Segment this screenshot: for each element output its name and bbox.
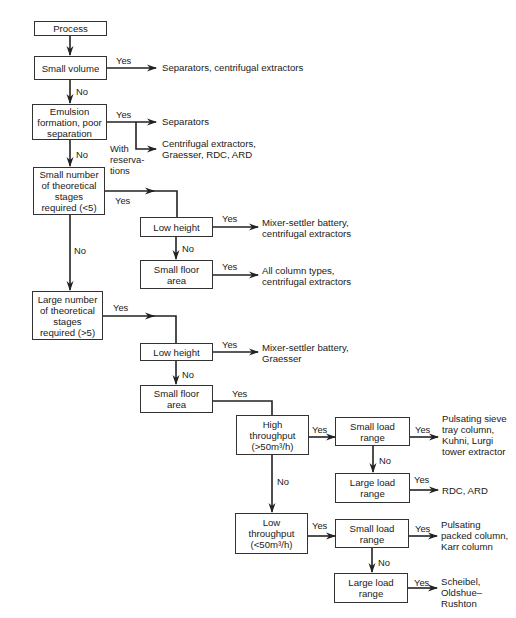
- outcome-emulsion: Separators: [162, 116, 209, 127]
- edge-label-yes: Yes: [116, 55, 131, 66]
- node-label: Small number of theoretical stages requi…: [39, 169, 98, 213]
- edge-label-yes: Yes: [222, 339, 237, 350]
- edge-label-no: No: [378, 557, 390, 568]
- node-small-load-range-2: Small load range: [335, 519, 409, 548]
- outcome-small-volume: Separators, centrifugal extractors: [162, 62, 303, 73]
- outcome-low-height-2: Mixer-settler battery, Graesser: [262, 342, 349, 364]
- node-label: Large number of theoretical stages requi…: [38, 294, 98, 338]
- edge-label-yes: Yes: [222, 261, 237, 272]
- node-low-throughput: Low throughput (<50m³/h): [235, 513, 308, 554]
- node-label: Small floor area: [154, 264, 199, 286]
- node-low-height-2: Low height: [140, 343, 213, 361]
- outcome-small-floor-1: All column types, centrifugal extractors: [262, 265, 351, 287]
- node-label: Small volume: [42, 63, 100, 74]
- edge-label-with-reservations: With reserva- tions: [110, 143, 144, 176]
- node-label: Process: [53, 23, 88, 34]
- edge-label-yes: Yes: [415, 523, 430, 534]
- edge-label-no: No: [182, 369, 194, 380]
- node-label: Emulsion formation, poor separation: [37, 106, 102, 139]
- node-small-floor-area-2: Small floor area: [140, 385, 213, 413]
- edge-label-yes: Yes: [312, 424, 327, 435]
- edge-label-no: No: [182, 243, 194, 254]
- node-small-floor-area-1: Small floor area: [140, 260, 213, 289]
- node-emulsion-formation: Emulsion formation, poor separation: [32, 104, 107, 140]
- edge-label-no: No: [379, 455, 391, 466]
- node-label: Low height: [153, 347, 199, 358]
- edge-label-no: No: [74, 245, 86, 256]
- edge-label-yes: Yes: [415, 424, 430, 435]
- node-label: Large load range: [350, 477, 395, 499]
- edge-label-yes: Yes: [414, 474, 429, 485]
- node-low-height-1: Low height: [140, 217, 213, 237]
- node-large-load-range-1: Large load range: [335, 473, 410, 503]
- outcome-small-load-1: Pulsating sieve tray column, Kuhni, Lurg…: [442, 413, 507, 457]
- node-process: Process: [34, 21, 107, 36]
- edge-label-no: No: [277, 476, 289, 487]
- node-label: Low throughput (<50m³/h): [249, 517, 295, 550]
- outcome-large-load-2: Scheibel, Oldshue– Rushton: [441, 576, 482, 609]
- edge-label-no: No: [76, 86, 88, 97]
- node-label: High throughput (>50m³/h): [250, 419, 296, 452]
- node-label: Small floor area: [154, 388, 199, 410]
- edge-label-yes: Yes: [115, 195, 130, 206]
- node-small-volume: Small volume: [34, 56, 107, 80]
- edge-label-yes: Yes: [222, 213, 237, 224]
- node-label: Large load range: [348, 577, 393, 599]
- node-label: Low height: [153, 222, 199, 233]
- edge-label-yes: Yes: [113, 302, 128, 313]
- node-large-load-range-2: Large load range: [334, 573, 408, 603]
- edge-label-yes: Yes: [116, 109, 131, 120]
- outcome-emulsion-reservations: Centrifugal extractors, Graesser, RDC, A…: [162, 138, 256, 160]
- outcome-large-load-1: RDC, ARD: [442, 485, 488, 496]
- edge-label-yes: Yes: [312, 520, 327, 531]
- node-label: Small load range: [350, 523, 395, 545]
- edge-label-yes: Yes: [232, 388, 247, 399]
- outcome-low-height-1: Mixer-settler battery, centrifugal extra…: [262, 217, 351, 239]
- node-high-throughput: High throughput (>50m³/h): [236, 415, 309, 455]
- edge-label-no: No: [76, 149, 88, 160]
- edge-label-yes: Yes: [414, 577, 429, 588]
- node-small-number-stages: Small number of theoretical stages requi…: [33, 167, 105, 215]
- outcome-small-load-2: Pulsating packed column, Karr column: [441, 519, 508, 552]
- node-small-load-range-1: Small load range: [335, 417, 410, 446]
- node-large-number-stages: Large number of theoretical stages requi…: [32, 291, 103, 340]
- extractor-selection-flowchart: Process Small volume Emulsion formation,…: [0, 0, 516, 618]
- node-label: Small load range: [350, 421, 395, 443]
